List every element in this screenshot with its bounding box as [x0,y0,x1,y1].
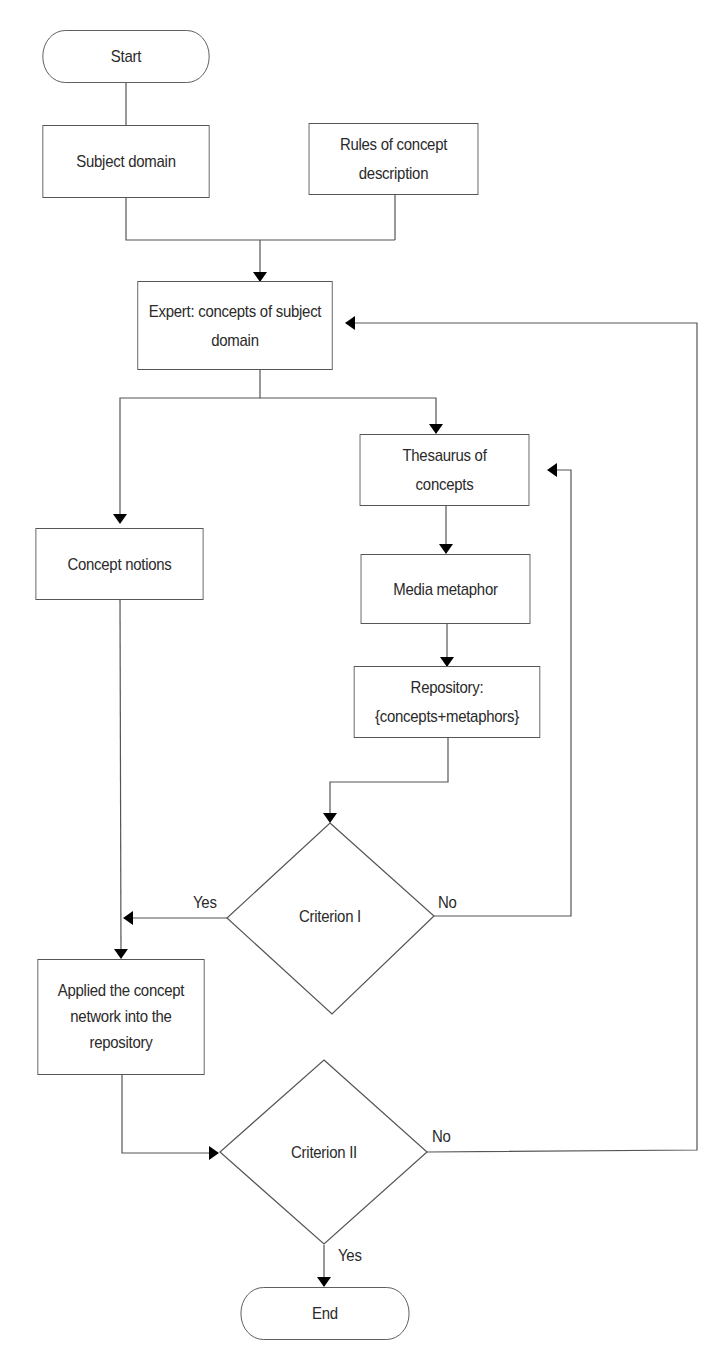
criterion2-label: Criterion II [291,1143,357,1163]
criterion1-label: Criterion I [299,907,361,927]
criterion2-no-label: No [432,1127,451,1147]
subject-domain-box: Subject domain [42,125,209,198]
edge-concept-notions-to-applied [120,600,121,958]
applied-box: Applied the concept network into the rep… [37,959,204,1075]
criterion1-yes-label: Yes [193,893,217,913]
expert-box: Expert: concepts of subject domain [137,281,332,370]
edge-subject-domain-to-merge [126,198,395,240]
start-label: Start [111,42,141,71]
rules-box: Rules of concept description [309,123,479,195]
criterion2-yes-label: Yes [338,1246,362,1266]
applied-label-line2: network into the [58,1004,184,1030]
end-terminator: End [241,1287,410,1340]
expert-label-line1: Expert: concepts of subject [149,297,321,326]
edge-applied-to-criterion2 [122,1075,218,1153]
edge-expert-to-thesaurus [260,398,436,433]
subject-domain-label: Subject domain [76,147,175,176]
repository-label-line1: Repository: [375,673,519,702]
caption-clipped [0,1364,721,1372]
media-metaphor-box: Media metaphor [361,554,531,624]
start-terminator: Start [42,30,209,83]
concept-notions-label: Concept notions [67,550,171,579]
rules-label-line1: Rules of concept [340,130,447,159]
criterion1-no-label: No [438,893,457,913]
flowchart-canvas: Start Subject domain Rules of concept de… [0,0,721,1372]
end-label: End [312,1299,338,1328]
rules-label-line2: description [340,159,447,188]
thesaurus-label-line2: concepts [402,470,486,499]
thesaurus-box: Thesaurus of concepts [360,434,530,506]
expert-label-line2: domain [149,326,321,355]
thesaurus-label-line1: Thesaurus of [402,441,486,470]
edge-repository-to-criterion1 [330,738,448,822]
edge-expert-split [120,370,260,523]
concept-notions-box: Concept notions [35,528,203,600]
repository-box: Repository: {concepts+metaphors} [354,666,541,738]
applied-label-line3: repository [58,1030,184,1056]
repository-label-line2: {concepts+metaphors} [375,702,519,731]
applied-label-line1: Applied the concept [58,978,184,1004]
media-metaphor-label: Media metaphor [393,575,497,604]
